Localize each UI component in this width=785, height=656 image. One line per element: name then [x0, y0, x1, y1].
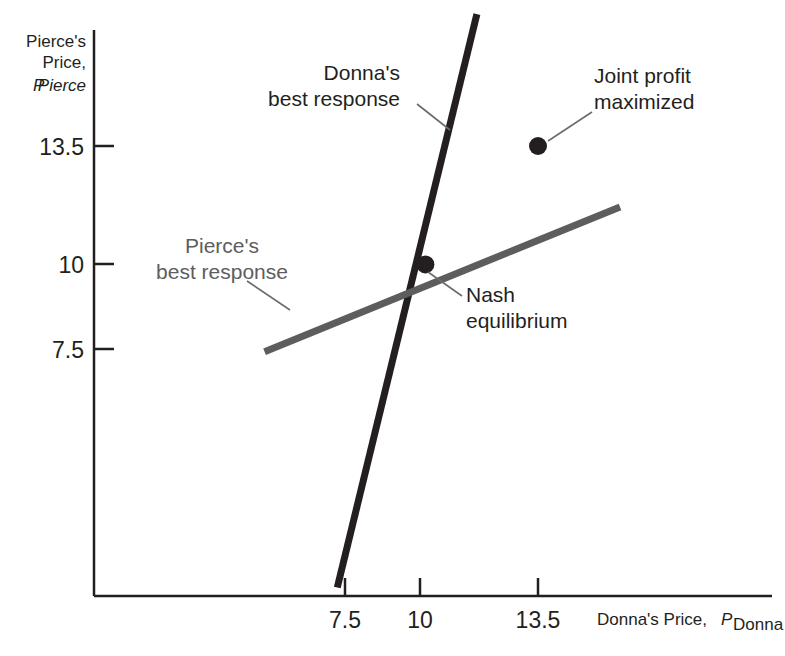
pierce-annotation-line1: Pierce's — [185, 234, 259, 257]
y-axis-title-line1: Pierce's — [26, 32, 86, 51]
x-axis-title-symbol: P — [721, 610, 733, 629]
donna-annotation-line2: best response — [268, 87, 400, 110]
y-axis-title-subscript: Pierce — [38, 76, 86, 95]
x-axis-title-text: Donna's Price, — [597, 610, 707, 629]
joint-annotation-line1: Joint profit — [594, 64, 691, 87]
nash-equilibrium-point — [416, 255, 434, 273]
chart-svg: 13.5 10 7.5 7.5 10 13.5 Pierce's Price, … — [0, 0, 785, 656]
joint-annotation-line2: maximized — [594, 90, 694, 113]
nash-annotation-line1: Nash — [466, 283, 515, 306]
pierce-annotation-line2: best response — [156, 260, 288, 283]
donna-annotation-line1: Donna's — [324, 61, 400, 84]
x-axis-title-subscript: Donna — [733, 615, 784, 634]
y-axis-title-line2: Price, — [43, 53, 86, 72]
x-tick-label-10: 10 — [407, 607, 433, 633]
best-response-chart: 13.5 10 7.5 7.5 10 13.5 Pierce's Price, … — [0, 0, 785, 656]
joint-profit-maximized-point — [529, 137, 547, 155]
y-axis-title-symbol-group: Pierce — [38, 76, 86, 95]
y-tick-label-13.5: 13.5 — [39, 134, 84, 160]
joint-leader-line — [548, 112, 592, 141]
nash-annotation-line2: equilibrium — [466, 309, 568, 332]
x-tick-label-7.5: 7.5 — [329, 607, 361, 633]
x-tick-label-13.5: 13.5 — [516, 607, 561, 633]
y-tick-label-10: 10 — [58, 252, 84, 278]
pierce-leader-line — [247, 281, 290, 310]
y-tick-label-7.5: 7.5 — [52, 337, 84, 363]
donna-leader-line — [417, 104, 450, 130]
y-axis-title-symbol: P — [33, 76, 45, 95]
